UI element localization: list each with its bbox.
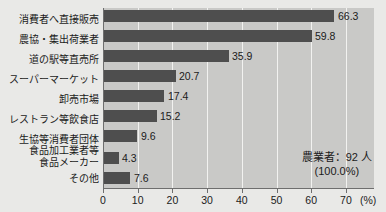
category-label: 農協・集出荷業者 xyxy=(0,31,99,46)
category-label: 消費者へ直接販売 xyxy=(0,11,99,26)
x-axis-tick xyxy=(207,189,208,193)
x-axis-tick xyxy=(277,189,278,193)
category-label-text: レストラン等飲食店 xyxy=(9,114,99,125)
category-label-text: 道の駅等直売所 xyxy=(29,54,99,65)
category-label-text: 生協等消費者団体 xyxy=(19,134,99,145)
bar-value-label: 59.8 xyxy=(315,30,335,42)
category-label: その他 xyxy=(0,170,99,185)
bar-series-item xyxy=(104,30,312,42)
x-axis-tick xyxy=(242,189,243,193)
bar-value-label: 20.7 xyxy=(179,70,199,82)
bar-series-item xyxy=(104,90,164,102)
x-tick-label: 20 xyxy=(167,194,179,206)
x-tick-label: 50 xyxy=(271,194,283,206)
bar-value-label: 35.9 xyxy=(232,50,252,62)
x-axis-tick xyxy=(346,189,347,193)
category-label-text: 消費者へ直接販売 xyxy=(19,14,99,25)
category-label-text: スーパーマーケット xyxy=(9,74,99,85)
annotation-line: 農業者：92 人 xyxy=(302,150,372,164)
x-axis-tick xyxy=(138,189,139,193)
bar-series-item xyxy=(104,152,119,164)
x-axis-tick xyxy=(311,189,312,193)
bar-value-label: 7.6 xyxy=(134,172,149,184)
bar-series-item xyxy=(104,130,137,142)
x-tick-label: 10 xyxy=(132,194,144,206)
category-label-text: 卸売市場 xyxy=(59,94,99,105)
bar-value-label: 9.6 xyxy=(141,130,156,142)
category-label: 生協等消費者団体 xyxy=(0,131,99,146)
bar-value-label: 17.4 xyxy=(168,90,188,102)
x-tick-label: 0 xyxy=(100,194,106,206)
chart-annotation: 農業者：92 人 (100.0%) xyxy=(302,150,372,178)
category-label-text: 農協・集出荷業者 xyxy=(19,34,99,45)
x-tick-label: 30 xyxy=(201,194,213,206)
bar-series-item xyxy=(104,172,130,184)
x-axis-tick xyxy=(172,189,173,193)
category-label: 食品加工業者等 食品メーカー xyxy=(0,145,99,168)
bar-value-label: 15.2 xyxy=(160,110,180,122)
bar-series-item xyxy=(104,50,229,62)
category-label: レストラン等飲食店 xyxy=(0,111,99,126)
x-tick-label: 60 xyxy=(305,194,317,206)
x-tick-label: 70 xyxy=(340,194,352,206)
bar-series-item xyxy=(104,10,334,22)
category-label: 道の駅等直売所 xyxy=(0,51,99,66)
bar-value-label: 4.3 xyxy=(122,152,137,164)
category-label: 卸売市場 xyxy=(0,91,99,106)
category-label: スーパーマーケット xyxy=(0,71,99,86)
bar-chart: 消費者へ直接販売 農協・集出荷業者 道の駅等直売所 スーパーマーケット 卸売市場… xyxy=(0,0,386,212)
category-label-text: 食品メーカー xyxy=(0,157,99,169)
x-axis-line xyxy=(103,188,374,189)
x-axis-unit-label: (%) xyxy=(360,194,376,206)
category-label-text: 食品加工業者等 xyxy=(0,145,99,157)
annotation-line: (100.0%) xyxy=(302,164,372,178)
bar-series-item xyxy=(104,70,176,82)
x-tick-label: 40 xyxy=(236,194,248,206)
x-axis-tick xyxy=(103,189,104,193)
bar-series-item xyxy=(104,110,157,122)
category-label-text: その他 xyxy=(69,173,99,184)
bar-value-label: 66.3 xyxy=(338,10,358,22)
